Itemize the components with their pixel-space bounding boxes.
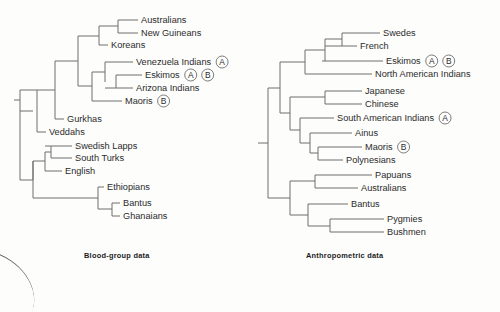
leaf-label: Bantus [123, 198, 152, 208]
marker-letter: B [401, 142, 407, 152]
leaf-label: New Guineans [141, 28, 202, 38]
marker-letter: B [446, 56, 452, 66]
marker-b: B [158, 95, 170, 107]
leaf-label: Maoris [365, 142, 393, 152]
leaf-label: North American Indians [375, 69, 471, 79]
leaf-label: Swedish Lapps [75, 141, 138, 151]
marker-b: B [443, 55, 455, 67]
leaf-label: Koreans [111, 40, 146, 50]
marker-b: B [398, 141, 410, 153]
leaf-label: Chinese [365, 99, 399, 109]
caption-blood-group: Blood-group data [84, 251, 150, 260]
marker-letter: A [442, 113, 448, 123]
leaf-label: Maoris [125, 96, 153, 106]
leaf-label: Bushmen [387, 227, 426, 237]
leaf-label: Australians [141, 15, 187, 25]
leaf-label: Arizona Indians [136, 83, 200, 93]
leaf-label: Pygmies [387, 214, 423, 224]
marker-letter: A [188, 70, 194, 80]
leaf-label: Ghanaians [123, 211, 168, 221]
marker-a: A [185, 69, 197, 81]
leaf-label: Eskimos [145, 70, 180, 80]
leaf-label: Bantus [351, 199, 380, 209]
marker-letter: B [205, 70, 211, 80]
caption-anthropometric: Anthropometric data [306, 251, 383, 260]
leaf-label: Swedes [383, 28, 416, 38]
marker-letter: A [429, 56, 435, 66]
marker-a: A [426, 55, 438, 67]
leaf-label: French [360, 41, 389, 51]
leaf-label: Australians [361, 183, 407, 193]
leaf-label: Ainus [355, 128, 378, 138]
leaf-label: English [65, 166, 95, 176]
marker-a: A [439, 112, 451, 124]
leaf-label: Venezuela Indians [136, 57, 211, 67]
leaf-label: Japanese [365, 86, 405, 96]
leaf-label: Veddahs [49, 127, 85, 137]
leaf-label: Eskimos [386, 56, 421, 66]
leaf-label: Gurkhas [67, 114, 102, 124]
marker-b: B [202, 69, 214, 81]
leaf-label: Papuans [375, 170, 412, 180]
marker-letter: B [161, 96, 167, 106]
leaf-label: Polynesians [346, 155, 396, 165]
leaf-label: South Turks [75, 153, 124, 163]
leaf-label: South American Indians [337, 113, 434, 123]
leaf-label: Ethiopians [107, 182, 150, 192]
marker-letter: A [219, 57, 225, 67]
marker-a: A [216, 56, 228, 68]
